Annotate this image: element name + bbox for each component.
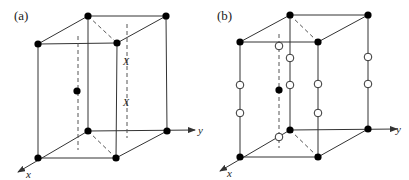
- atom-open: [275, 42, 283, 50]
- x-marker-upper: X: [122, 56, 130, 67]
- atom-filled: [84, 12, 91, 19]
- panel-a: (a) y x X X: [14, 8, 203, 180]
- crystal-lattice-figure: (a) y x X X: [0, 0, 409, 180]
- atom-filled: [314, 38, 321, 45]
- atom-filled: [34, 154, 41, 161]
- panel-b-edges: [240, 15, 368, 157]
- panel-b: (b) y x: [217, 8, 401, 179]
- atom-open: [286, 81, 294, 89]
- atom-open: [314, 109, 322, 117]
- panel-b-axes: [220, 129, 397, 171]
- atom-filled: [162, 12, 169, 19]
- atom-filled: [364, 11, 371, 18]
- atom-open: [286, 54, 294, 62]
- atom-filled: [112, 154, 119, 161]
- panel-a-edges: [38, 16, 167, 158]
- panel-a-dashed: [78, 16, 127, 158]
- panel-b-open-atoms: [236, 42, 372, 141]
- atom-open: [236, 109, 244, 117]
- atom-filled: [236, 153, 243, 160]
- panel-a-label: (a): [14, 8, 28, 23]
- atom-filled: [84, 127, 91, 134]
- panel-b-dashed: [279, 15, 318, 157]
- x-axis-label: x: [226, 167, 232, 179]
- y-axis-label: y: [395, 123, 401, 135]
- x-axis-label: x: [25, 168, 31, 180]
- atom-filled: [364, 125, 371, 132]
- y-axis-arrow: [88, 130, 195, 131]
- atom-filled: [163, 127, 170, 134]
- atom-filled: [286, 126, 293, 133]
- atom-open: [314, 80, 322, 88]
- atom-filled-center: [275, 86, 282, 93]
- atom-filled: [286, 11, 293, 18]
- y-axis-label: y: [197, 124, 203, 136]
- panel-b-label: (b): [217, 8, 232, 23]
- atom-filled: [236, 38, 243, 45]
- x-marker-lower: X: [122, 97, 130, 108]
- atom-filled-center: [73, 87, 80, 94]
- atom-open: [275, 133, 283, 141]
- panel-a-axes: [18, 130, 195, 172]
- atom-open: [236, 81, 244, 89]
- atom-open: [364, 80, 372, 88]
- atom-filled: [113, 39, 120, 46]
- atom-filled: [34, 40, 41, 47]
- atom-open: [364, 53, 372, 61]
- y-axis-arrow: [290, 129, 397, 130]
- atom-filled: [314, 153, 321, 160]
